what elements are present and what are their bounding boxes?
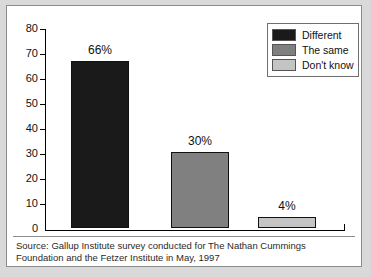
caption-divider: [13, 236, 355, 237]
y-axis-label-60: 60: [14, 73, 38, 84]
legend-swatch-the-same: [272, 44, 296, 56]
y-axis-label-70: 70: [14, 48, 38, 59]
source-caption: Source: Gallup Institute survey conducte…: [16, 240, 351, 263]
y-axis-label-30: 30: [14, 148, 38, 159]
legend-item-the-same: The same: [272, 43, 354, 57]
legend-label-the-same: The same: [302, 44, 349, 56]
chart-legend: Different The same Don't know: [267, 23, 359, 77]
figure-panel: 80 70 60 50 40 30 20 10 0 66% 30% 4% Dif…: [6, 5, 362, 267]
y-axis-label-80: 80: [14, 23, 38, 34]
source-caption-line-2: Foundation and the Fetzer Institute in M…: [16, 252, 351, 264]
legend-label-different: Different: [302, 29, 342, 41]
bar-label-different: 66%: [71, 44, 129, 57]
y-axis-label-10: 10: [14, 198, 38, 209]
y-axis-label-20: 20: [14, 173, 38, 184]
y-axis-label-40: 40: [14, 123, 38, 134]
legend-swatch-different: [272, 29, 296, 41]
bar-label-the-same: 30%: [171, 135, 229, 148]
source-caption-line-1: Source: Gallup Institute survey conducte…: [16, 240, 351, 252]
y-axis-label-0: 0: [14, 223, 38, 234]
y-axis-labels: 80 70 60 50 40 30 20 10 0: [13, 11, 38, 233]
bar-dont-know: [258, 217, 316, 228]
chart-plot-area: 80 70 60 50 40 30 20 10 0 66% 30% 4% Dif…: [13, 11, 355, 233]
y-axis-label-50: 50: [14, 98, 38, 109]
legend-label-dont-know: Don't know: [302, 59, 354, 71]
legend-item-different: Different: [272, 28, 354, 42]
bar-different: [71, 61, 129, 228]
legend-swatch-dont-know: [272, 59, 296, 71]
bar-label-dont-know: 4%: [258, 200, 316, 213]
legend-item-dont-know: Don't know: [272, 58, 354, 72]
bar-the-same: [171, 152, 229, 228]
